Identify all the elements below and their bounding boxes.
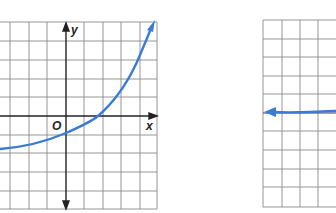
y-axis-arrow-up-icon — [63, 23, 69, 31]
exponential-curve — [0, 26, 152, 149]
x-axis-label: x — [145, 119, 154, 133]
axes — [0, 23, 157, 209]
origin-label: O — [52, 119, 62, 133]
graph-canvas: y x O — [0, 0, 336, 213]
right-curve-arrow-icon — [264, 107, 276, 117]
y-axis-label: y — [70, 23, 79, 37]
y-axis-arrow-down-icon — [63, 201, 69, 209]
right-curve — [272, 111, 336, 112]
